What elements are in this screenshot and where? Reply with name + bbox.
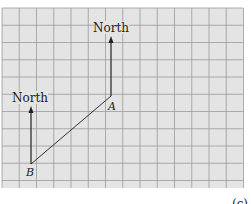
point-a-label: A (107, 100, 116, 113)
panel-label: (c) (232, 197, 248, 204)
north-label-a: North (93, 21, 129, 35)
point-b-label: B (25, 166, 34, 179)
north-label-b: North (12, 91, 48, 105)
north-bearing-diagram: North North A B (c) (0, 0, 251, 204)
